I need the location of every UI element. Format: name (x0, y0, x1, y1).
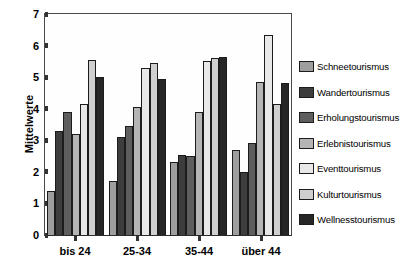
legend-swatch (299, 61, 314, 72)
bar (125, 126, 133, 235)
y-tick-label: 1 (33, 197, 45, 209)
bar (88, 60, 96, 235)
y-tick-label: 2 (33, 166, 45, 178)
legend-swatch (299, 112, 314, 123)
bar (273, 104, 281, 235)
bar (281, 83, 289, 235)
bar (63, 112, 71, 235)
y-tick-label: 6 (33, 40, 45, 52)
x-tick-label: 25-34 (106, 245, 168, 257)
x-tick-label: bis 24 (44, 245, 106, 257)
bar (47, 191, 55, 235)
y-tick-label: 3 (33, 134, 45, 146)
legend-swatch (299, 87, 314, 98)
bar (133, 107, 141, 235)
y-axis-title: Mittelwerte (23, 69, 35, 179)
bar (211, 58, 219, 235)
y-tick-label: 4 (33, 103, 45, 115)
legend-item: Erlebnistourismus (299, 131, 419, 157)
bar (109, 181, 117, 235)
bar (150, 63, 158, 235)
legend-swatch (299, 138, 314, 149)
bar (55, 131, 63, 235)
bar-group (168, 14, 230, 235)
bar (117, 137, 125, 235)
legend-item: Erholungstourismus (299, 105, 419, 131)
x-tick-mark (136, 236, 139, 241)
bar (141, 68, 149, 235)
legend-label: Eventtourismus (317, 163, 381, 174)
bar-group (107, 14, 169, 235)
bar (195, 112, 203, 235)
legend-label: Wandertourismus (317, 87, 390, 98)
legend-swatch (299, 214, 314, 225)
legend-label: Erholungstourismus (317, 112, 399, 123)
x-tick: über 44 (230, 236, 292, 261)
bar (186, 156, 194, 235)
bar (80, 104, 88, 235)
x-tick: bis 24 (44, 236, 106, 261)
bar (264, 35, 272, 235)
bar-group (45, 14, 107, 235)
bar (96, 77, 104, 235)
legend-item: Kulturtourismus (299, 182, 419, 208)
bar (240, 172, 248, 235)
bar-groups (45, 14, 291, 235)
legend-label: Wellnesstourismus (317, 214, 395, 225)
x-tick-mark (260, 236, 263, 241)
x-tick: 35-44 (168, 236, 230, 261)
legend-label: Schneetourismus (317, 61, 389, 72)
legend-label: Kulturtourismus (317, 189, 381, 200)
plot-area: 76543210 (44, 13, 292, 236)
bar (232, 150, 240, 235)
chart-legend: SchneetourismusWandertourismusErholungst… (299, 54, 419, 233)
x-axis-ticks: bis 2425-3435-44über 44 (44, 236, 292, 261)
y-tick-label: 7 (33, 8, 45, 20)
x-tick-label: über 44 (230, 245, 292, 257)
legend-item: Wandertourismus (299, 80, 419, 106)
legend-item: Eventtourismus (299, 156, 419, 182)
bar (72, 134, 80, 235)
x-tick-mark (198, 236, 201, 241)
legend-item: Wellnesstourismus (299, 207, 419, 233)
bar (178, 155, 186, 236)
bar (256, 82, 264, 235)
bar-group (230, 14, 292, 235)
legend-swatch (299, 163, 314, 174)
bar (170, 162, 178, 235)
x-tick-mark (74, 236, 77, 241)
bar (248, 143, 256, 235)
legend-item: Schneetourismus (299, 54, 419, 80)
bar (158, 79, 166, 235)
legend-swatch (299, 189, 314, 200)
y-tick-label: 5 (33, 71, 45, 83)
legend-label: Erlebnistourismus (317, 138, 391, 149)
bar (219, 57, 227, 235)
x-tick-label: 35-44 (168, 245, 230, 257)
x-tick: 25-34 (106, 236, 168, 261)
bar (203, 61, 211, 235)
bar-chart-figure: Mittelwerte 76543210 bis 2425-3435-44übe… (0, 0, 420, 261)
